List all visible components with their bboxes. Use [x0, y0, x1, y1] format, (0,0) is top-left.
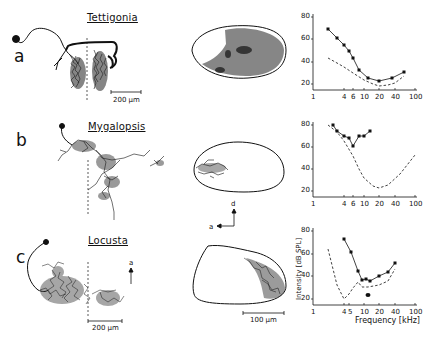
chart-locusta [311, 228, 417, 305]
section-drawing-tettigonia [192, 26, 286, 79]
chart-b-xtick-100: 100 [409, 200, 422, 208]
chart-a-ytick-60: 60 [301, 34, 310, 42]
chart-b-ytick-20: 20 [301, 186, 310, 194]
chart-a-ytick-80: 80 [301, 12, 310, 20]
chart-c-xtick-100: 100 [409, 308, 422, 316]
chart-c-xlabel: Frequency [kHz] [355, 316, 420, 325]
chart-c-xtick-5: 5 [348, 308, 352, 316]
chart-c-xtick-20: 20 [375, 308, 384, 316]
chart-a-ytick-20: 20 [301, 79, 310, 87]
section-drawing-mygalopsis [194, 142, 284, 228]
chart-b-ytick-60: 60 [301, 142, 310, 150]
chart-c-xtick-1: 1 [311, 308, 315, 316]
chart-a-xtick-100: 100 [409, 93, 422, 101]
chart-b-ytick-80: 80 [301, 120, 310, 128]
chart-tettigonia [311, 14, 417, 90]
figure-drawings [0, 0, 434, 343]
chart-b-xtick-6: 6 [351, 200, 355, 208]
chart-b-xtick-40: 40 [391, 200, 400, 208]
chart-a-xtick-20: 20 [375, 93, 384, 101]
chart-b-xtick-10: 10 [360, 200, 369, 208]
chart-c-ytick-80: 80 [301, 226, 310, 234]
chart-c-xtick-4: 4 [342, 308, 346, 316]
section-drawing-locusta [193, 245, 286, 315]
chart-b-xtick-4: 4 [342, 200, 346, 208]
chart-a-ytick-40: 40 [301, 57, 310, 65]
chart-b-ytick-40: 40 [301, 164, 310, 172]
neuron-drawing-tettigonia [13, 28, 142, 100]
chart-b-xtick-1: 1 [311, 200, 315, 208]
chart-c-xtick-40: 40 [391, 308, 400, 316]
chart-a-xtick-1: 1 [311, 93, 315, 101]
neuron-drawing-mygalopsis [58, 124, 164, 221]
chart-c-ylabel: Intensity [dB SPL] [295, 238, 303, 300]
chart-b-xtick-20: 20 [375, 200, 384, 208]
chart-a-xtick-40: 40 [391, 93, 400, 101]
chart-a-xtick-10: 10 [360, 93, 369, 101]
chart-c-xtick-10: 10 [360, 308, 369, 316]
neuron-drawing-locusta [27, 240, 133, 324]
chart-a-xtick-6: 6 [351, 93, 355, 101]
chart-a-xtick-4: 4 [342, 93, 346, 101]
chart-mygalopsis [311, 122, 417, 197]
